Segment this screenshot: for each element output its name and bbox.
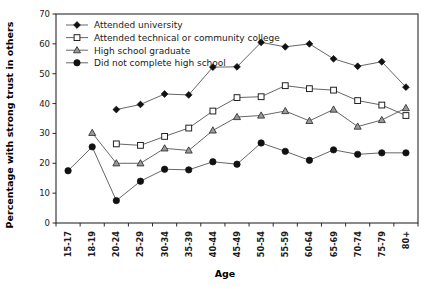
data-point xyxy=(355,98,361,104)
y-tick-label: 50 xyxy=(39,69,50,79)
chart-container: 010203040506070 15-1718-1920-2425-2930-3… xyxy=(0,0,431,290)
data-point xyxy=(379,102,385,108)
y-tick-label: 70 xyxy=(39,9,50,19)
data-point xyxy=(186,125,192,131)
x-tick-label: 75-79 xyxy=(377,231,387,257)
legend-marker xyxy=(74,22,81,29)
y-axis-ticks: 010203040506070 xyxy=(39,9,56,228)
y-tick-label: 40 xyxy=(39,99,50,109)
x-tick-label: 25-29 xyxy=(135,231,145,257)
data-point xyxy=(210,159,216,165)
data-point xyxy=(138,142,144,148)
legend-marker xyxy=(74,35,80,41)
data-point xyxy=(282,83,288,89)
data-point xyxy=(282,43,289,50)
data-point xyxy=(234,95,240,101)
data-point xyxy=(113,197,119,203)
data-point xyxy=(186,167,192,173)
x-tick-label: 18-19 xyxy=(87,231,97,257)
x-tick-label: 35-39 xyxy=(184,231,194,257)
x-tick-label: 30-34 xyxy=(160,231,170,257)
x-tick-label: 50-54 xyxy=(256,231,266,257)
series-2 xyxy=(89,104,410,165)
legend-label: High school graduate xyxy=(94,46,191,56)
data-point xyxy=(137,101,144,108)
x-tick-label: 15-17 xyxy=(63,231,73,257)
y-tick-label: 10 xyxy=(39,188,50,198)
data-point xyxy=(403,150,409,156)
data-point xyxy=(161,145,168,151)
trust-by-age-line-chart: 010203040506070 15-1718-1920-2425-2930-3… xyxy=(0,0,431,290)
data-point xyxy=(161,166,167,172)
legend-item-1: Attended technical or community college xyxy=(66,33,280,43)
x-tick-label: 65-69 xyxy=(329,231,339,257)
data-point xyxy=(282,107,289,113)
legend-label: Attended technical or community college xyxy=(94,33,280,43)
data-point xyxy=(331,87,337,93)
data-point xyxy=(89,144,95,150)
data-point xyxy=(234,161,240,167)
x-tick-label: 45-49 xyxy=(232,231,242,257)
x-tick-label: 60-64 xyxy=(304,231,314,257)
data-point xyxy=(137,178,143,184)
data-point xyxy=(306,40,313,47)
legend-label: Did not complete high school xyxy=(94,58,226,68)
chart-legend: Attended universityAttended technical or… xyxy=(66,20,280,68)
data-point xyxy=(402,104,409,110)
data-point xyxy=(378,116,385,122)
legend-item-2: High school graduate xyxy=(66,46,191,56)
legend-item-3: Did not complete high school xyxy=(66,58,226,68)
data-point xyxy=(306,157,312,163)
y-tick-label: 0 xyxy=(45,218,50,228)
data-point xyxy=(258,140,264,146)
data-point xyxy=(113,106,120,113)
data-point xyxy=(354,63,361,70)
data-point xyxy=(282,148,288,154)
series-3 xyxy=(65,140,409,204)
legend-marker xyxy=(74,47,81,53)
y-tick-label: 30 xyxy=(39,128,50,138)
data-point xyxy=(209,127,216,133)
data-point xyxy=(354,151,360,157)
x-axis-title: Age xyxy=(215,268,236,279)
data-point xyxy=(330,106,337,112)
x-tick-label: 20-24 xyxy=(111,231,121,257)
data-point xyxy=(307,86,313,92)
data-point xyxy=(161,91,168,98)
y-axis-title: Percentage with strong trust in others xyxy=(4,21,15,228)
x-tick-label: 55-59 xyxy=(280,231,290,257)
legend-marker xyxy=(74,60,80,66)
data-point xyxy=(162,134,168,140)
data-point xyxy=(330,55,337,62)
data-point xyxy=(258,94,264,100)
y-tick-label: 20 xyxy=(39,158,50,168)
x-tick-label: 70-74 xyxy=(353,231,363,257)
legend-item-0: Attended university xyxy=(66,20,183,30)
x-axis-ticks: 15-1718-1920-2425-2930-3435-3940-4445-49… xyxy=(56,223,418,257)
data-point xyxy=(379,150,385,156)
data-point xyxy=(137,160,144,166)
y-tick-label: 60 xyxy=(39,39,50,49)
data-point xyxy=(330,147,336,153)
x-tick-label: 40-44 xyxy=(208,231,218,257)
data-point xyxy=(65,168,71,174)
x-tick-label: 80+ xyxy=(401,231,411,249)
data-point xyxy=(210,108,216,114)
data-point xyxy=(113,141,119,147)
legend-label: Attended university xyxy=(94,20,183,30)
data-point xyxy=(306,117,313,123)
data-point xyxy=(403,113,409,119)
series-polyline xyxy=(68,143,406,201)
data-point xyxy=(89,129,96,135)
